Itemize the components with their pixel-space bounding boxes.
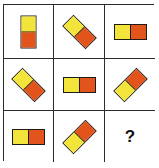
question-mark: ?: [105, 111, 155, 162]
domino-shape: [114, 24, 147, 40]
grid-cell-r3-c2: [54, 111, 105, 162]
yellow-square: [115, 25, 131, 39]
orange-square: [29, 130, 44, 144]
grid-cell-r3-c1: [4, 111, 54, 162]
grid-cell-r2-c1: [4, 59, 54, 111]
orange-square: [22, 32, 36, 47]
domino-shape: [11, 67, 46, 102]
domino-shape: [62, 119, 97, 154]
domino-shape: [62, 14, 97, 49]
grid-cell-r2-c3: [105, 59, 155, 111]
domino-shape: [63, 77, 96, 93]
grid-cell-r1-c2: [54, 5, 105, 59]
yellow-square: [64, 78, 80, 92]
puzzle-grid: ?: [3, 4, 154, 161]
orange-square: [131, 25, 146, 39]
grid-cell-r1-c3: [105, 5, 155, 59]
orange-square: [80, 78, 95, 92]
domino-shape: [113, 67, 148, 102]
grid-cell-r2-c2: [54, 59, 105, 111]
grid-cell-r3-c3[interactable]: ?: [105, 111, 155, 162]
yellow-square: [22, 16, 36, 32]
domino-shape: [21, 15, 37, 48]
grid-cell-r1-c1: [4, 5, 54, 59]
yellow-square: [13, 130, 29, 144]
domino-shape: [12, 129, 45, 145]
